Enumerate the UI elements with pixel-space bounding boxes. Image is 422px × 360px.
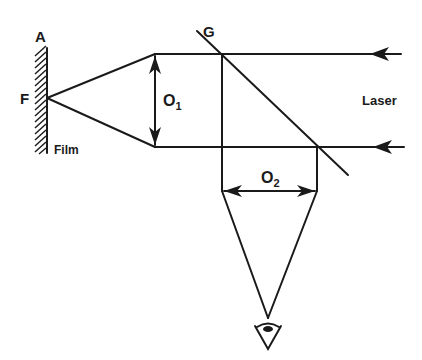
label-film: Film xyxy=(54,143,79,157)
label-laser: Laser xyxy=(362,93,397,108)
film-plate xyxy=(35,46,47,154)
eye-icon xyxy=(255,324,281,350)
beamsplitter-g xyxy=(197,31,348,175)
label-f: F xyxy=(20,90,29,107)
label-o2: O2 xyxy=(261,169,280,189)
ray-converging-right xyxy=(268,191,317,318)
label-a: A xyxy=(35,28,46,45)
ray-upper-diverging xyxy=(47,54,155,98)
ray-converging-left xyxy=(222,191,268,318)
ray-lower-diverging xyxy=(47,98,155,147)
lens-o2-arrow xyxy=(224,185,315,197)
label-g: G xyxy=(203,23,215,40)
label-o1: O1 xyxy=(163,92,182,112)
optical-diagram: A F Film O1 Laser G O2 xyxy=(0,0,422,360)
lens-o1-arrow xyxy=(149,56,161,145)
